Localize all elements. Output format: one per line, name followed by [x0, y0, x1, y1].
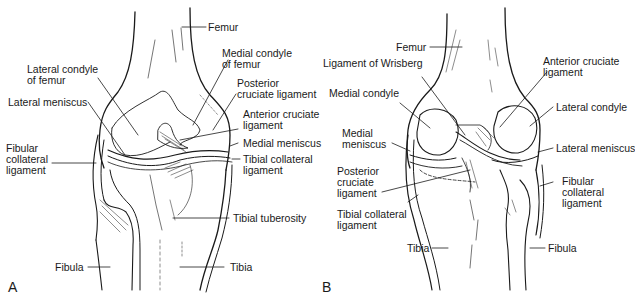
label-a-lateral-condyle-femur: Lateral condyle of femur: [27, 64, 102, 86]
label-a-femur: Femur: [208, 22, 238, 33]
label-b-fibula: Fibula: [548, 243, 577, 254]
knee-line-drawings: [0, 0, 635, 298]
label-b-lateral-meniscus: Lateral meniscus: [556, 143, 635, 154]
label-a-tibial-collateral: Tibial collateral ligament: [243, 154, 313, 176]
label-a-tibial-tuberosity: Tibial tuberosity: [233, 213, 306, 224]
label-a-tibia: Tibia: [230, 262, 252, 273]
knee-anatomy-figure: Femur Medial condyle of femur Lateral co…: [0, 0, 635, 298]
label-b-medial-meniscus: Medial meniscus: [342, 128, 392, 150]
label-a-medial-condyle-femur: Medial condyle of femur: [222, 48, 297, 70]
label-b-medial-condyle: Medial condyle: [329, 88, 399, 99]
label-b-lateral-condyle: Lateral condyle: [556, 102, 627, 113]
label-b-anterior-cruciate: Anterior cruciate ligament: [543, 56, 623, 78]
label-a-medial-meniscus: Medial meniscus: [243, 138, 321, 149]
label-b-fibular-collateral: Fibular collateral ligament: [562, 176, 612, 209]
panel-letter-a: A: [8, 279, 17, 295]
panel-letter-b: B: [322, 279, 331, 295]
label-a-lateral-meniscus: Lateral meniscus: [8, 97, 87, 108]
label-a-anterior-cruciate: Anterior cruciate ligament: [243, 109, 323, 131]
panel-a-drawing: [93, 8, 232, 292]
label-b-ligament-wrisberg: Ligament of Wrisberg: [323, 58, 423, 69]
label-a-fibular-collateral: Fibular collateral ligament: [6, 143, 56, 176]
label-b-femur: Femur: [396, 42, 426, 53]
label-a-fibula: Fibula: [55, 262, 84, 273]
label-b-tibial-collateral: Tibial collateral ligament: [337, 209, 412, 231]
label-b-tibia: Tibia: [407, 243, 429, 254]
label-a-posterior-cruciate: Posterior cruciate ligament: [237, 78, 317, 100]
label-b-posterior-cruciate: Posterior cruciate ligament: [337, 166, 385, 199]
